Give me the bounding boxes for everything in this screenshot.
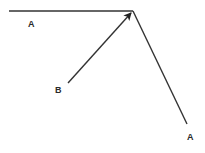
vector-diagram: A B A — [0, 0, 205, 153]
arrow-b — [68, 13, 131, 83]
line-a-diagonal — [133, 11, 187, 124]
label-a-bottom: A — [187, 132, 194, 142]
label-a-top: A — [28, 19, 35, 29]
label-b: B — [55, 85, 62, 95]
